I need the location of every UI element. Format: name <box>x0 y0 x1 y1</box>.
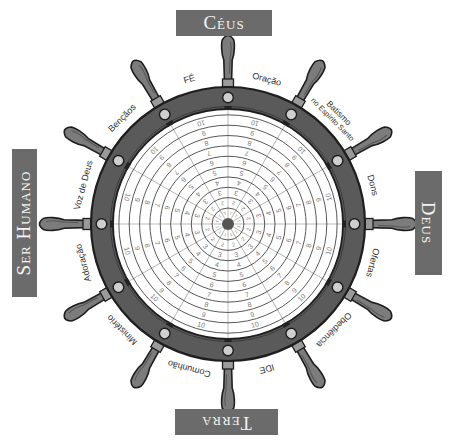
sector-label: Oração <box>251 70 282 87</box>
handle-grip <box>62 290 107 323</box>
handle-collar <box>83 219 91 230</box>
title-terra: Terra <box>201 412 252 433</box>
title-box-deus: Deus <box>415 171 442 275</box>
sector-label: Dons <box>365 174 380 197</box>
title-ceus: Céus <box>203 12 244 34</box>
handle-grip <box>349 124 394 157</box>
handle-grip <box>294 58 327 103</box>
dial-hub <box>222 218 234 230</box>
wheel-handle <box>222 36 235 88</box>
handle-grip <box>128 345 161 390</box>
handle-grip <box>62 124 107 157</box>
sector-label: Ofertas <box>364 247 381 279</box>
handle-grip <box>40 218 85 231</box>
sector-label: Adoração <box>73 243 93 283</box>
handle-collar <box>223 79 234 87</box>
handle-grip <box>372 218 417 231</box>
title-deus: Deus <box>418 202 440 244</box>
handle-collar <box>223 361 234 369</box>
handle-grip <box>222 36 235 81</box>
rim-notch <box>342 221 346 228</box>
wheel-handle <box>365 218 417 231</box>
rim-notch <box>225 338 232 342</box>
title-box-ser-humano: Ser Humano <box>12 149 37 297</box>
sector-label: Voz de Deus <box>72 159 95 211</box>
rim-bolt <box>96 219 107 230</box>
sector-label: Comunhão <box>167 358 212 379</box>
title-box-ceus: Céus <box>176 10 272 36</box>
title-ser-humano: Ser Humano <box>14 171 36 276</box>
rim-bolt <box>349 219 360 230</box>
handle-grip <box>128 58 161 103</box>
ship-wheel-diagram: 1234567891012345678910123456789101234567… <box>0 0 452 440</box>
handle-grip <box>349 290 394 323</box>
sector-label: FÉ <box>182 73 196 86</box>
wheel-handle <box>62 287 113 324</box>
handle-grip <box>222 368 235 413</box>
rim-notch <box>110 221 114 228</box>
rim-bolt <box>223 345 234 356</box>
wheel-handle <box>128 58 165 109</box>
handle-grip <box>294 345 327 390</box>
wheel-handle <box>128 339 165 390</box>
wheel-handle <box>222 361 235 413</box>
wheel-handle <box>343 124 394 161</box>
wheel-handle <box>40 218 92 231</box>
rim-notch <box>225 106 232 110</box>
title-box-terra: Terra <box>175 409 278 435</box>
wheel-handle <box>62 124 113 161</box>
sector-label: IDE <box>258 362 275 376</box>
rim-bolt <box>223 92 234 103</box>
handle-collar <box>365 219 373 230</box>
